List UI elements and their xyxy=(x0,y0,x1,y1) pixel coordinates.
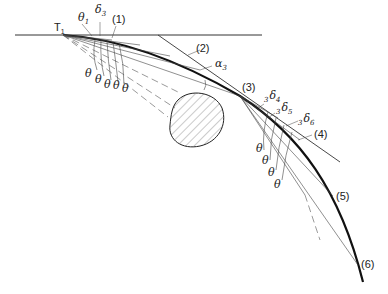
label-theta-e: θ xyxy=(122,83,129,94)
label-alpha3: α3 xyxy=(215,58,227,69)
label-theta-a: θ xyxy=(85,68,92,79)
label-theta-i: θ xyxy=(274,179,281,190)
label-3delta5: 3δ5 xyxy=(276,102,293,113)
label-theta-c: θ xyxy=(104,79,111,90)
label-theta1: θ1 xyxy=(78,12,89,23)
label-point-1: (1) xyxy=(112,14,125,25)
label-theta-g: θ xyxy=(262,155,269,166)
diagram-canvas xyxy=(0,0,388,294)
label-point-4: (4) xyxy=(314,129,327,140)
label-theta-f: θ xyxy=(256,143,263,154)
label-theta-h: θ xyxy=(268,167,275,178)
dashed-lines-from-t1 xyxy=(63,35,178,117)
label-theta-b: θ xyxy=(95,74,102,85)
label-3delta6: 3δ6 xyxy=(298,113,315,124)
label-point-3: (3) xyxy=(242,82,255,93)
label-point-2: (2) xyxy=(196,43,209,54)
obstacle xyxy=(170,93,224,147)
chords-from-t1 xyxy=(63,35,240,96)
alpha3-arc xyxy=(204,80,206,90)
label-point-6: (6) xyxy=(361,259,374,270)
label-delta3: δ3 xyxy=(95,4,106,15)
label-theta-d: θ xyxy=(113,80,120,91)
label-t1: T1 xyxy=(54,22,65,33)
dashed-line-from-3 xyxy=(305,195,320,240)
label-point-5: (5) xyxy=(336,191,349,202)
trajectory-curve xyxy=(63,35,363,282)
label-3delta4: 3δ4 xyxy=(264,90,281,101)
